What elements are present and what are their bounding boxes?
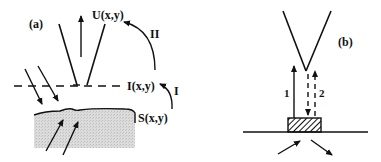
path-i-arrow-icon [160, 84, 172, 109]
probe-b [283, 11, 331, 71]
probe-a [59, 24, 105, 85]
beam-2-label: 2 [319, 87, 325, 99]
beam-1-label: 1 [284, 87, 290, 99]
panel-a-label: (a) [29, 17, 43, 31]
s-label: S(x,y) [138, 111, 168, 125]
outgoing-arrow-icon [311, 140, 332, 155]
hatched-sample [288, 118, 321, 132]
path-ii-label: II [150, 27, 160, 41]
path-i-label: I [174, 84, 179, 98]
incoming-arrow-icon [278, 141, 300, 154]
i-label: I(x,y) [127, 79, 155, 93]
u-label: U(x,y) [92, 8, 124, 22]
panel-b: (b) 1 2 [243, 11, 368, 155]
diagram-canvas: (a) U(x,y) I(x,y) S(x,y) I II ( [0, 0, 381, 162]
sample-body [34, 109, 135, 148]
panel-b-label: (b) [338, 35, 353, 49]
incident-arrow-icon [38, 66, 58, 101]
incident-arrow-icon [25, 69, 42, 104]
panel-a: (a) U(x,y) I(x,y) S(x,y) I II [14, 8, 179, 155]
